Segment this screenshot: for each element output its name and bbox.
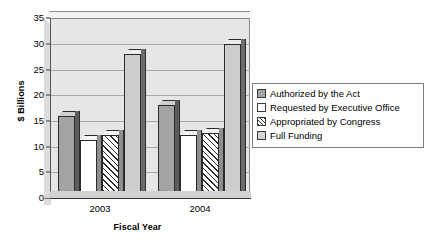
bar-2003-appropriated-by-congress: [102, 135, 119, 198]
bar-2004-full-funding: [224, 44, 241, 198]
legend-swatch-icon: [257, 117, 266, 126]
y-tick-label: 35: [18, 12, 44, 23]
y-tick-label: 20: [18, 89, 44, 100]
bar-chart: $ Billions 35 30 25 20 15 10 5 0: [0, 0, 428, 242]
y-tick-label: 10: [18, 141, 44, 152]
gridline: [50, 95, 250, 96]
legend-label: Full Funding: [270, 130, 322, 141]
legend-label: Appropriated by Congress: [270, 116, 380, 127]
bar-2004-appropriated-by-congress: [202, 133, 219, 198]
bar-face: [102, 135, 119, 198]
legend-label: Authorized by the Act: [270, 88, 360, 99]
y-tick-label: 25: [18, 64, 44, 75]
y-tick-label: 0: [18, 192, 44, 203]
bar-side: [141, 49, 146, 193]
gridline: [50, 70, 250, 71]
bar-face: [124, 54, 141, 198]
bar-face: [58, 116, 75, 198]
bar-2003-full-funding: [124, 54, 141, 198]
bar-face: [224, 44, 241, 198]
bar-2004-authorized-by-the-act: [158, 105, 175, 198]
legend-item-requested-by-executive-office: Requested by Executive Office: [257, 101, 419, 114]
bar-face: [80, 140, 97, 198]
gridline: [50, 121, 250, 122]
legend-item-appropriated-by-congress: Appropriated by Congress: [257, 115, 419, 128]
bar-side: [241, 39, 246, 193]
y-tick-label: 5: [18, 166, 44, 177]
y-axis-line: [50, 18, 51, 199]
bar-2003-authorized-by-the-act: [58, 116, 75, 198]
chart-legend: Authorized by the Act Requested by Execu…: [252, 83, 424, 148]
x-axis-title: Fiscal Year: [40, 222, 235, 232]
y-tick-label: 15: [18, 115, 44, 126]
bar-face: [202, 133, 219, 198]
y-tick-label: 30: [18, 38, 44, 49]
legend-item-full-funding: Full Funding: [257, 129, 419, 142]
x-tick-label-2003: 2003: [70, 203, 130, 214]
legend-swatch-icon: [257, 103, 266, 112]
bar-2004-requested-by-executive-office: [180, 135, 197, 198]
bar-face: [180, 135, 197, 198]
legend-item-authorized-by-the-act: Authorized by the Act: [257, 87, 419, 100]
gridline: [50, 44, 250, 45]
bar-face: [158, 105, 175, 198]
legend-swatch-icon: [257, 89, 266, 98]
y-axis-tick-labels: 35 30 25 20 15 10 5 0: [18, 0, 44, 242]
x-axis-line: [50, 198, 251, 199]
x-tick-label-2004: 2004: [170, 203, 230, 214]
bar-2003-requested-by-executive-office: [80, 140, 97, 198]
legend-swatch-icon: [257, 131, 266, 140]
legend-label: Requested by Executive Office: [270, 102, 400, 113]
